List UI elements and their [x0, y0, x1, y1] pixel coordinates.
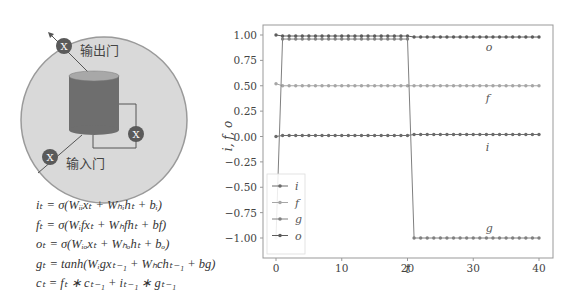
- data-point: [333, 84, 336, 87]
- data-point: [347, 134, 350, 137]
- input-gate-icon: X: [42, 149, 58, 165]
- data-point: [452, 133, 455, 136]
- svg-text:g: g: [295, 213, 302, 226]
- data-point: [426, 236, 429, 239]
- data-point: [537, 84, 540, 87]
- annotation-i: i: [486, 141, 490, 154]
- y-tick-label: −0.25: [225, 156, 257, 168]
- data-point: [465, 133, 468, 136]
- data-point: [327, 134, 330, 137]
- data-point: [353, 134, 356, 137]
- y-tick-label: 0.50: [234, 80, 257, 92]
- data-point: [465, 35, 468, 38]
- formula-cell-state: cₜ = fₜ ∗ cₜ₋₁ + iₜ₋₁ ∗ gₜ₋₁: [36, 274, 226, 294]
- data-point: [287, 134, 290, 137]
- data-point: [314, 84, 317, 87]
- data-point: [360, 34, 363, 37]
- data-point: [452, 35, 455, 38]
- data-point: [458, 236, 461, 239]
- x-tick-label: 10: [335, 262, 348, 274]
- data-point: [287, 34, 290, 37]
- data-point: [445, 236, 448, 239]
- y-axis-label: i, f, o: [221, 121, 235, 151]
- data-point: [380, 34, 383, 37]
- data-point: [419, 35, 422, 38]
- data-point: [537, 35, 540, 38]
- data-point: [452, 236, 455, 239]
- data-point: [511, 84, 514, 87]
- data-point: [432, 35, 435, 38]
- formula-forget-gate: fₜ = σ(Wᵢfxₜ + Wₕfhₜ + bf): [36, 216, 226, 236]
- data-point: [347, 34, 350, 37]
- gate-values-chart: 1.000.750.500.250.00−0.25−0.50−0.75−1.00…: [200, 0, 572, 308]
- data-point: [478, 84, 481, 87]
- x-tick-label: 0: [273, 262, 280, 274]
- data-point: [281, 37, 284, 40]
- data-point: [531, 35, 534, 38]
- data-point: [366, 37, 369, 40]
- data-point: [287, 84, 290, 87]
- data-point: [373, 84, 376, 87]
- data-point: [320, 84, 323, 87]
- data-point: [504, 133, 507, 136]
- data-point: [504, 84, 507, 87]
- annotation-g: g: [486, 222, 493, 235]
- data-point: [399, 37, 402, 40]
- svg-text:X: X: [132, 129, 140, 140]
- data-point: [432, 133, 435, 136]
- data-point: [406, 134, 409, 137]
- data-point: [452, 84, 455, 87]
- data-point: [419, 84, 422, 87]
- data-point: [320, 134, 323, 137]
- data-point: [524, 236, 527, 239]
- data-point: [294, 134, 297, 137]
- data-point: [511, 35, 514, 38]
- data-point: [432, 84, 435, 87]
- data-point: [458, 133, 461, 136]
- data-point: [498, 133, 501, 136]
- data-point: [485, 35, 488, 38]
- data-point: [366, 84, 369, 87]
- data-point: [274, 82, 277, 85]
- data-point: [294, 37, 297, 40]
- formula-output-gate: oₜ = σ(Wᵢₒxₜ + Wₕₒhₜ + bₒ): [36, 235, 226, 255]
- data-point: [498, 236, 501, 239]
- data-point: [498, 35, 501, 38]
- data-point: [301, 34, 304, 37]
- data-point: [426, 35, 429, 38]
- y-tick-label: 0.25: [234, 105, 257, 117]
- data-point: [353, 37, 356, 40]
- input-gate-label: 输入门: [66, 156, 105, 171]
- data-point: [445, 35, 448, 38]
- data-point: [320, 37, 323, 40]
- data-point: [301, 37, 304, 40]
- svg-text:X: X: [60, 41, 68, 52]
- data-point: [445, 84, 448, 87]
- data-point: [399, 84, 402, 87]
- data-point: [393, 134, 396, 137]
- data-point: [478, 236, 481, 239]
- data-point: [458, 35, 461, 38]
- data-point: [511, 236, 514, 239]
- data-point: [485, 133, 488, 136]
- data-point: [485, 236, 488, 239]
- data-point: [531, 236, 534, 239]
- data-point: [518, 133, 521, 136]
- data-point: [439, 84, 442, 87]
- formula-candidate: gₜ = tanh(Wᵢgxₜ₋₁ + Wₕchₜ₋₁ + bg): [36, 255, 226, 275]
- data-point: [333, 134, 336, 137]
- data-point: [406, 34, 409, 37]
- x-tick-label: 30: [467, 262, 480, 274]
- data-point: [307, 34, 310, 37]
- data-point: [537, 236, 540, 239]
- data-point: [386, 34, 389, 37]
- data-point: [340, 34, 343, 37]
- data-point: [412, 84, 415, 87]
- y-tick-label: −1.00: [225, 232, 257, 244]
- data-point: [465, 84, 468, 87]
- data-point: [524, 133, 527, 136]
- data-point: [412, 35, 415, 38]
- data-point: [472, 84, 475, 87]
- data-point: [366, 134, 369, 137]
- data-point: [327, 34, 330, 37]
